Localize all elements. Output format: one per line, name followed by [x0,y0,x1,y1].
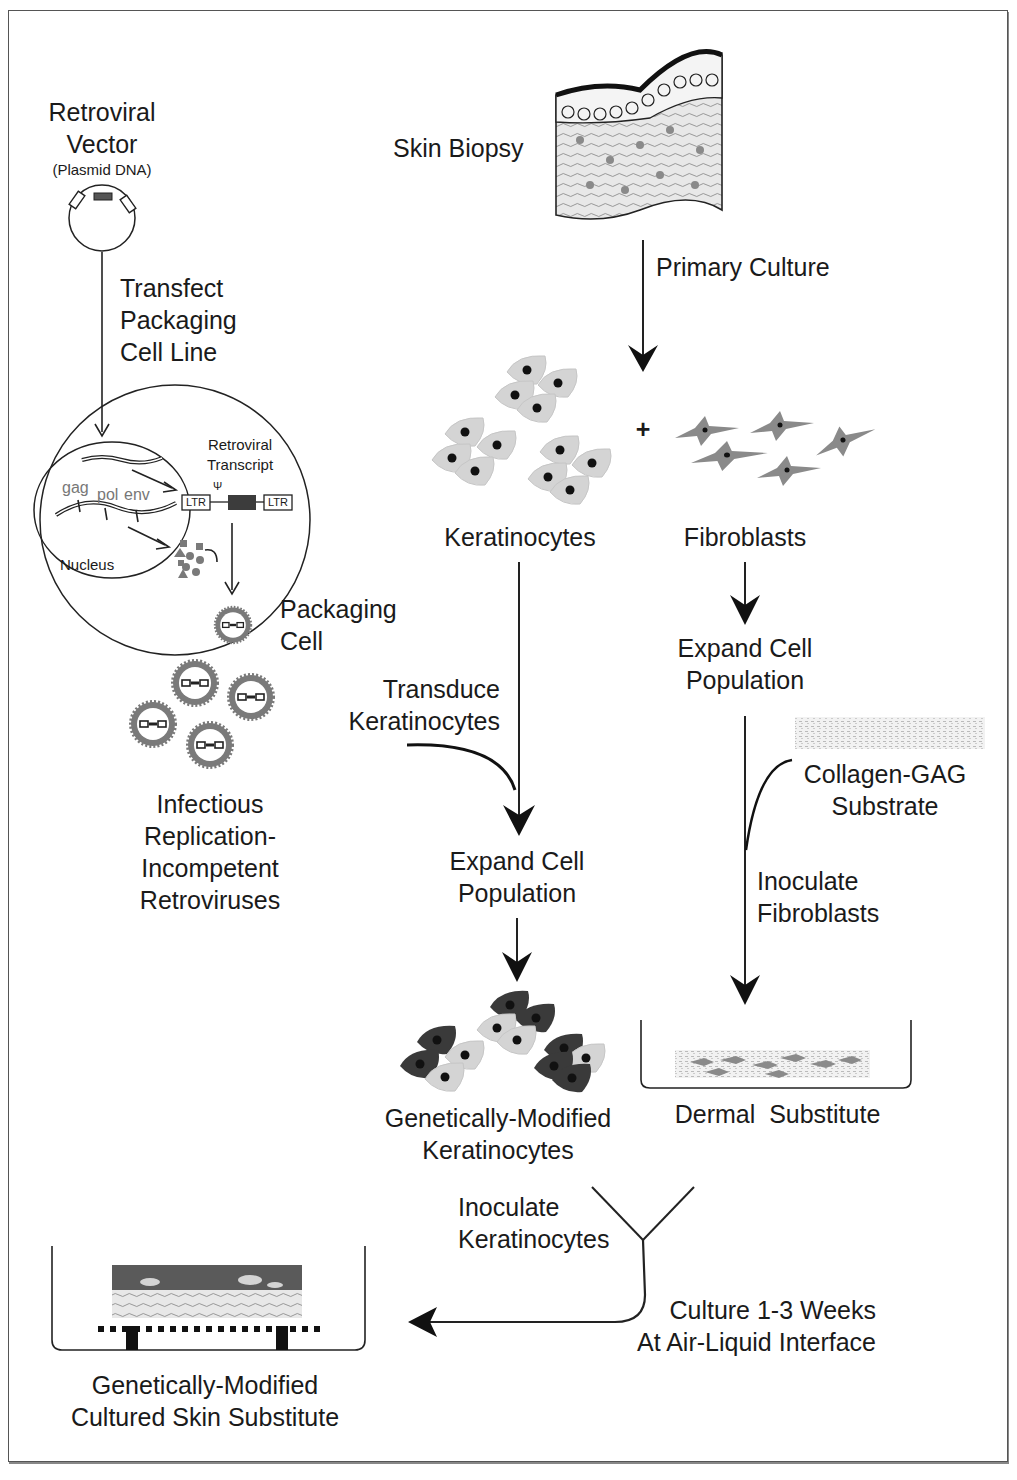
expand-keratinocytes-label: Expand Cell Population [432,845,602,909]
gm-keratinocytes-icon [400,991,605,1092]
ltr-right-label: LTR [268,493,288,511]
plus-sign: + [628,413,658,445]
expand-fibroblasts-label: Expand Cell Population [660,632,830,696]
culture-label: Culture 1-3 Weeks At Air-Liquid Interfac… [600,1294,876,1358]
retroviruses-label: Infectious Replication- Incompetent Retr… [110,788,310,916]
inoculate-fibroblasts-arrow [730,716,792,1005]
final-skin-substitute-dish-icon [52,1246,365,1350]
transfect-arrow [95,252,109,436]
vector-subtitle: (Plasmid DNA) [30,160,174,180]
fibroblasts-label: Fibroblasts [665,521,825,553]
keratinocytes-label: Keratinocytes [430,521,610,553]
vector-title: Retroviral Vector [40,96,164,160]
retrovirus-icons [131,661,273,767]
gene-env: env [124,485,150,505]
gene-gag: gag [62,478,89,498]
primary-culture-label: Primary Culture [656,251,830,283]
gm-keratinocytes-label: Genetically-Modified Keratinocytes [370,1102,626,1166]
transduce-label: Transduce Keratinocytes [330,673,500,737]
inoculate-fibroblasts-label: Inoculate Fibroblasts [757,865,879,929]
psi-label: Ψ [213,478,222,494]
packaging-cell-label: Packaging Cell [280,593,397,657]
skin-biopsy-label: Skin Biopsy [393,132,524,164]
primary-culture-arrow [628,240,658,372]
diagram-canvas [0,0,1017,1480]
keratinocyte-expand-arrow [502,918,532,982]
fibroblast-expand-arrow [730,562,760,625]
gene-pol: pol [97,485,118,505]
packaging-cell-icon [34,385,310,655]
inoculate-keratinocytes-label: Inoculate Keratinocytes [458,1191,609,1255]
keratinocytes-icon [432,356,611,504]
transfect-label: Transfect Packaging Cell Line [120,272,237,368]
final-product-label: Genetically-Modified Cultured Skin Subst… [50,1369,360,1433]
collagen-label: Collagen-GAG Substrate [800,758,970,822]
budding-virus-icon [215,607,250,642]
ltr-left-label: LTR [186,493,206,511]
nucleus-label: Nucleus [60,555,114,575]
collagen-substrate-icon [795,717,985,749]
skin-biopsy-icon [556,52,722,219]
dermal-substitute-label: Dermal Substitute [655,1098,900,1130]
fibroblasts-icon [675,411,880,486]
dermal-substitute-dish-icon [641,1020,911,1088]
plasmid-icon [69,185,136,251]
retroviral-transcript-label: Retroviral Transcript [190,435,290,475]
